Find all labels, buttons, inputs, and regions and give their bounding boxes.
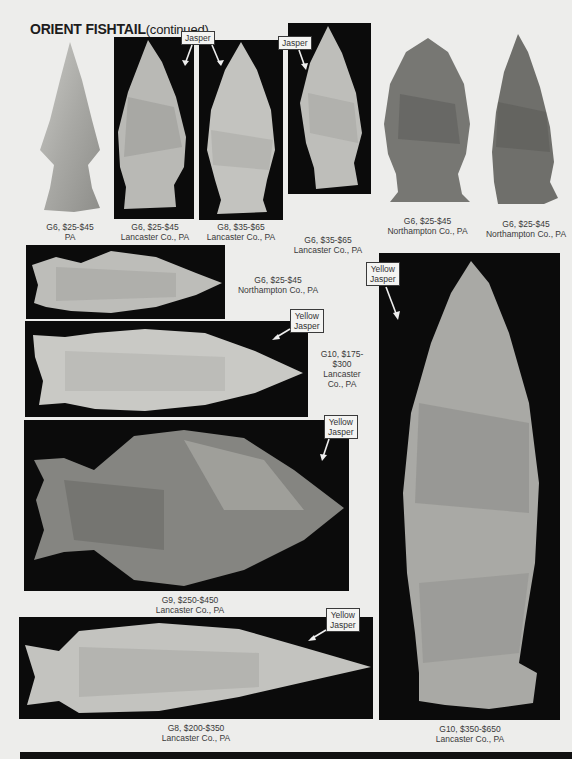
specimen-photo-5 (380, 34, 475, 206)
specimen-caption-9: G9, $250-$450 Lancaster Co., PA (140, 595, 240, 615)
arrow-icon (296, 49, 310, 71)
material-tag-yellow-jasper: Yellow Jasper (366, 262, 400, 286)
specimen-caption-11: G10, $350-$650 Lancaster Co., PA (415, 724, 525, 744)
arrow-icon (306, 628, 328, 642)
material-tag-jasper: Jasper (278, 36, 312, 50)
title-main: ORIENT FISHTAIL (30, 21, 146, 37)
specimen-caption-5: G6, $25-$45 Northampton Co., PA (380, 216, 475, 236)
arrow-icon (270, 327, 292, 341)
arrow-icon (384, 286, 402, 322)
arrowhead-image (488, 32, 560, 210)
specimen-caption-8: G10, $175- $300 Lancaster Co., PA (306, 349, 378, 389)
arrow-icon (208, 44, 228, 68)
specimen-caption-4: G6, $35-$65 Lancaster Co., PA (283, 235, 373, 255)
arrowhead-image (26, 245, 225, 319)
material-tag-yellow-jasper: Yellow Jasper (326, 608, 360, 632)
arrowhead-image (379, 253, 560, 720)
material-tag-yellow-jasper: Yellow Jasper (290, 309, 324, 333)
arrowhead-image (24, 420, 349, 591)
specimen-photo-1 (30, 40, 110, 220)
specimen-photo-11 (379, 253, 560, 720)
specimen-caption-1: G6, $25-$45 PA (30, 222, 110, 242)
arrowhead-image (30, 40, 110, 220)
arrowhead-image (25, 321, 308, 417)
specimen-photo-8 (25, 321, 308, 417)
specimen-caption-2: G6, $25-$45 Lancaster Co., PA (110, 222, 200, 242)
bottom-photo-edge (20, 752, 572, 759)
specimen-photo-9 (24, 420, 349, 591)
material-tag-yellow-jasper: Yellow Jasper (324, 415, 358, 439)
arrow-icon (318, 438, 332, 462)
specimen-caption-7: G6, $25-$45 Northampton Co., PA (228, 275, 328, 295)
specimen-photo-6 (488, 32, 560, 210)
material-tag-jasper: Jasper (181, 31, 215, 45)
arrowhead-image (380, 34, 475, 206)
specimen-caption-10: G8, $200-$350 Lancaster Co., PA (146, 723, 246, 743)
arrow-icon (180, 44, 200, 68)
specimen-caption-6: G6, $25-$45 Northampton Co., PA (480, 219, 572, 239)
specimen-caption-3: G8, $35-$65 Lancaster Co., PA (196, 222, 286, 242)
specimen-photo-7 (26, 245, 225, 319)
